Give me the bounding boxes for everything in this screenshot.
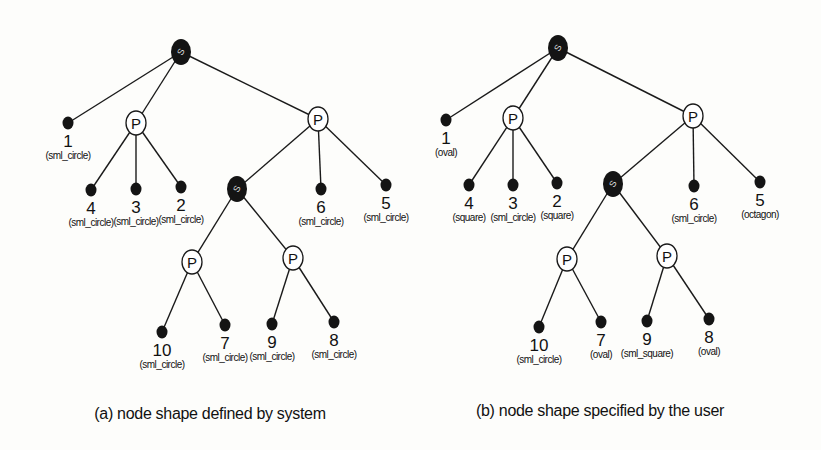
tree-edge [693, 116, 760, 182]
tree-edge [513, 48, 558, 118]
tree-node-P1: P [503, 106, 523, 130]
tree-node-rootS: S [171, 39, 191, 65]
leaf-number-label: 6 [316, 198, 325, 217]
leaf-node-icon [534, 321, 545, 334]
tree-edge [192, 189, 237, 262]
tree-node-n6: 6(sml_circle) [298, 183, 343, 228]
leaf-number-label: 5 [755, 191, 764, 210]
tree-node-P4: P [657, 244, 677, 268]
tree-node-P2: P [683, 104, 703, 128]
tree-node-S2: S [603, 171, 623, 197]
leaf-shape-label: (oval) [435, 147, 457, 158]
tree-diagrams-canvas: S1(sml_circle)PP4(sml_circle)3(sml_circl… [0, 0, 821, 450]
leaf-number-label: 1 [63, 132, 72, 151]
leaf-shape-label: (sml_circle) [68, 217, 113, 228]
leaf-number-label: 7 [220, 334, 229, 353]
tree-edge [68, 52, 181, 123]
parallel-node-label: P [508, 110, 518, 127]
tree-edge [237, 119, 318, 189]
tree-node-P3: P [557, 247, 577, 271]
leaf-number-label: 4 [464, 194, 473, 213]
tree-node-n7: 7(sml_circle) [202, 319, 247, 364]
leaf-shape-label: (sml_circle) [311, 349, 356, 360]
leaf-node-icon [329, 316, 340, 329]
tree-node-n7: 7(oval) [590, 316, 612, 361]
parallel-node-label: P [131, 115, 141, 132]
parallel-node-label: P [562, 251, 572, 268]
leaf-number-label: 9 [642, 330, 651, 349]
tree-edge [136, 52, 181, 123]
leaf-node-icon [131, 183, 142, 196]
tree-node-n8: 8(sml_circle) [311, 316, 356, 361]
parallel-node-label: P [187, 254, 197, 271]
tree-node-n2: 2(square) [540, 177, 573, 222]
leaf-node-icon [508, 179, 519, 192]
leaf-shape-label: (octagon) [741, 209, 779, 220]
leaf-shape-label: (sml_circle) [490, 212, 535, 223]
leaf-node-icon [441, 114, 452, 127]
tree-node-n4: 4(square) [452, 179, 485, 224]
leaf-node-icon [552, 177, 563, 190]
leaf-node-icon [642, 315, 653, 328]
tree-node-n9: 9(sml_square) [621, 315, 674, 360]
leaf-node-icon [86, 184, 97, 197]
leaf-node-icon [316, 183, 327, 196]
tree-node-n3: 3(sml_circle) [490, 179, 535, 224]
tree-node-n3: 3(sml_circle) [113, 183, 158, 228]
tree-node-P2: P [308, 107, 328, 131]
tree-edge [558, 48, 693, 116]
tree-diagram-b: S1(oval)PP4(square)3(sml_circle)2(square… [435, 35, 779, 365]
leaf-shape-label: (sml_circle) [671, 213, 716, 224]
leaf-shape-label: (sml_circle) [45, 150, 90, 161]
leaf-shape-label: (sml_circle) [202, 352, 247, 363]
leaf-shape-label: (oval) [590, 349, 612, 360]
leaf-number-label: 8 [704, 328, 713, 347]
tree-node-rootS: S [548, 35, 568, 61]
tree-node-n10: 10(sml_circle) [139, 326, 184, 371]
leaf-number-label: 2 [552, 192, 561, 211]
tree-node-S2: S [227, 176, 247, 202]
leaf-node-icon [755, 176, 766, 189]
leaf-shape-label: (oval) [698, 346, 720, 357]
leaf-number-label: 3 [508, 194, 517, 213]
parallel-node-label: P [288, 250, 298, 267]
tree-diagram-a: S1(sml_circle)PP4(sml_circle)3(sml_circl… [45, 39, 408, 370]
tree-edge [469, 118, 513, 185]
tree-edge [91, 123, 136, 190]
leaf-number-label: 9 [267, 333, 276, 352]
leaf-number-label: 5 [381, 194, 390, 213]
tree-node-n9: 9(sml_circle) [249, 318, 294, 363]
leaf-number-label: 10 [153, 341, 172, 360]
leaf-shape-label: (square) [452, 212, 485, 223]
leaf-node-icon [220, 319, 231, 332]
tree-edge [446, 48, 558, 120]
leaf-number-label: 7 [596, 331, 605, 350]
leaf-shape-label: (sml_circle) [363, 212, 408, 223]
leaf-shape-label: (sml_circle) [249, 351, 294, 362]
leaf-node-icon [464, 179, 475, 192]
parallel-node-label: P [662, 248, 672, 265]
leaf-number-label: 8 [329, 331, 338, 350]
caption-b: (b) node shape specified by the user [476, 402, 724, 420]
leaf-shape-label: (sml_circle) [516, 354, 561, 365]
tree-node-n8: 8(oval) [698, 313, 720, 358]
tree-node-n6: 6(sml_circle) [671, 180, 716, 225]
tree-edge [181, 52, 318, 119]
leaf-number-label: 4 [86, 199, 95, 218]
tree-node-n10: 10(sml_circle) [516, 321, 561, 366]
tree-node-n1: 1(sml_circle) [45, 117, 90, 162]
caption-a: (a) node shape defined by system [94, 405, 325, 423]
tree-node-n4: 4(sml_circle) [68, 184, 113, 229]
leaf-shape-label: (sml_circle) [298, 216, 343, 227]
tree-node-n5: 5(sml_circle) [363, 179, 408, 224]
tree-edge [613, 184, 667, 256]
tree-node-P1: P [126, 111, 146, 135]
leaf-node-icon [689, 180, 700, 193]
leaf-shape-label: (sml_circle) [113, 216, 158, 227]
leaf-node-icon [267, 318, 278, 331]
tree-node-n5: 5(octagon) [741, 176, 779, 221]
leaf-node-icon [596, 316, 607, 329]
tree-node-P3: P [182, 250, 202, 274]
leaf-shape-label: (square) [540, 210, 573, 221]
leaf-number-label: 1 [441, 129, 450, 148]
